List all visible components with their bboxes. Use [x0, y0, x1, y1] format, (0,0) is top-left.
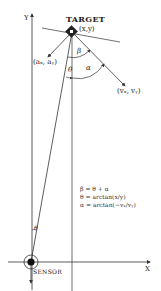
velocity-label: (vₓ, vᵧ) [117, 88, 140, 95]
theta-arc-top [66, 77, 72, 78]
equation-beta: β = θ + α [80, 185, 136, 193]
x-axis-label: X [145, 266, 150, 273]
theta-label-top: θ [68, 67, 72, 74]
equations-block: β = θ + α θ = arctan(x/y) α = arctan(−vₓ… [80, 185, 136, 209]
equation-alpha: α = arctan(−vₓ/vᵧ) [80, 201, 136, 209]
theta-label-bottom: θ [34, 225, 38, 231]
alpha-label: α [86, 65, 91, 72]
velocity-vector [72, 32, 125, 86]
acceleration-label: (aₓ, aᵧ) [33, 59, 57, 66]
y-axis-label: Y [24, 15, 29, 22]
target-title: TARGET [66, 15, 105, 23]
diagram-canvas [0, 0, 161, 291]
sensor-title: SENSOR [33, 269, 62, 275]
beta-label: β [77, 48, 81, 55]
target-coordinates: (x,y) [79, 26, 95, 33]
equation-theta: θ = arctan(x/y) [80, 193, 136, 201]
